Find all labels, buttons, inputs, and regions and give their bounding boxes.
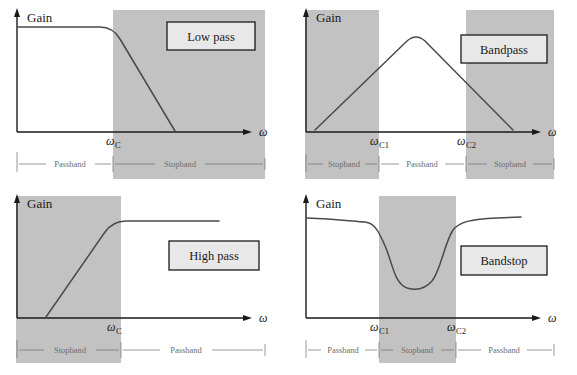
y-axis-arrowhead — [303, 194, 309, 203]
title-box-low-pass: Low pass — [167, 22, 255, 50]
panel-high-pass: Gain ω ω C Stopband Passband High pass — [0, 188, 289, 375]
title-box-bandpass: Bandpass — [461, 35, 547, 63]
band-ruler-passband-left: Passband — [306, 340, 377, 358]
cutoff-subscript-c1: C1 — [379, 140, 389, 150]
band-label-passband: Passband — [406, 159, 438, 169]
gain-axis-label: Gain — [316, 196, 342, 211]
cutoff-subscript-c: C — [116, 326, 122, 336]
filter-response-figure: Gain ω ω C Passband Stopband Low pass — [0, 0, 577, 375]
panel-low-pass: Gain ω ω C Passband Stopband Low pass — [0, 0, 289, 188]
x-axis-arrowhead — [243, 315, 252, 321]
bandstop-chart: Gain ω ω C1 ω C2 Passband Stopband — [289, 188, 577, 375]
band-label-stopband: Stopband — [54, 345, 87, 355]
band-label-passband-left: Passband — [327, 345, 359, 355]
omega-axis-label: ω — [548, 125, 556, 139]
omega-axis-label: ω — [259, 311, 267, 325]
omega-axis-label: ω — [259, 125, 267, 139]
low-pass-chart: Gain ω ω C Passband Stopband Low pass — [0, 0, 289, 188]
cutoff-symbol-c: ω — [107, 320, 115, 334]
x-axis-arrowhead — [532, 315, 541, 321]
shaded-stopband-region — [379, 196, 456, 363]
band-label-stopband: Stopband — [401, 345, 434, 355]
title-box-label: Low pass — [187, 30, 235, 44]
title-box-label: Bandpass — [480, 43, 528, 57]
band-label-passband: Passband — [54, 159, 86, 169]
band-ruler-passband-right: Passband — [456, 342, 554, 358]
band-label-passband: Passband — [170, 345, 202, 355]
gain-axis-label: Gain — [316, 10, 342, 25]
shaded-stopband-region — [16, 196, 121, 363]
title-box-bandstop: Bandstop — [461, 246, 547, 275]
cutoff-symbol-c1: ω — [370, 134, 378, 148]
title-box-high-pass: High pass — [169, 241, 259, 270]
cutoff-symbol-c2: ω — [447, 320, 455, 334]
band-label-passband-right: Passband — [488, 345, 520, 355]
gain-axis-label: Gain — [27, 10, 53, 25]
band-ruler-passband: Passband — [17, 152, 111, 172]
panel-bandpass: Gain ω ω C1 ω C2 Stopband Passband — [289, 0, 577, 188]
cutoff-subscript-c2: C2 — [466, 140, 476, 150]
title-box-label: High pass — [189, 249, 239, 263]
cutoff-symbol-c1: ω — [370, 320, 378, 334]
cutoff-subscript-c: C — [115, 140, 121, 150]
bandpass-chart: Gain ω ω C1 ω C2 Stopband Passband — [289, 0, 577, 188]
title-box-label: Bandstop — [480, 254, 527, 268]
gain-axis-label: Gain — [27, 196, 53, 211]
high-pass-chart: Gain ω ω C Stopband Passband High pass — [0, 188, 289, 375]
band-label-stopband-right: Stopband — [494, 159, 527, 169]
shaded-stopband-region-left — [305, 10, 379, 179]
omega-axis-label: ω — [548, 311, 556, 325]
cutoff-subscript-c1: C1 — [379, 326, 389, 336]
band-label-stopband-left: Stopband — [328, 159, 361, 169]
y-axis-arrowhead — [14, 8, 20, 17]
cutoff-symbol-c2: ω — [457, 134, 465, 148]
band-ruler-passband: Passband — [121, 342, 265, 358]
panel-bandstop: Gain ω ω C1 ω C2 Passband Stopband — [289, 188, 577, 375]
cutoff-symbol-c: ω — [106, 134, 114, 148]
band-ruler-passband: Passband — [379, 156, 464, 172]
cutoff-subscript-c2: C2 — [456, 326, 466, 336]
band-label-stopband: Stopband — [164, 159, 197, 169]
